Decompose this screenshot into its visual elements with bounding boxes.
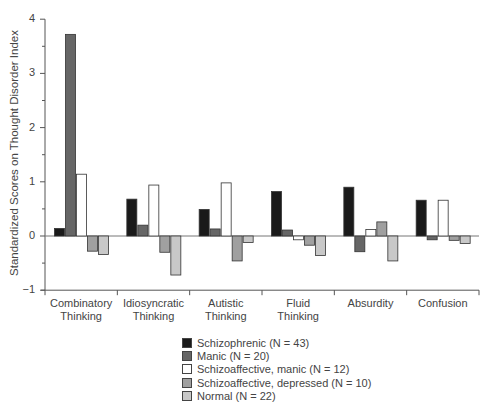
bar-schizoaffective-manic: [149, 185, 159, 236]
legend-item: Manic (N = 20): [182, 349, 371, 362]
bar-normal: [99, 236, 109, 254]
legend-label: Schizoaffective, manic (N = 12): [197, 363, 349, 375]
x-tick-label: CombinatoryThinking: [41, 297, 121, 323]
bar-manic: [210, 229, 220, 236]
y-tick-label: 1: [21, 175, 35, 187]
legend-label: Manic (N = 20): [197, 350, 269, 362]
bar-schizoaffective-manic: [366, 229, 376, 236]
plot-area: [0, 0, 496, 330]
x-tick-label: AutisticThinking: [186, 297, 266, 323]
bar-schizophrenic: [272, 192, 282, 236]
bar-normal: [316, 236, 326, 256]
y-tick-label: −1: [21, 283, 35, 295]
bar-manic: [66, 34, 76, 236]
bar-schizophrenic: [55, 228, 65, 236]
bar-schizoaffective-depressed: [377, 222, 387, 236]
x-tick-label: Confusion: [403, 297, 483, 310]
y-tick-label: 4: [21, 12, 35, 24]
y-tick-label: 3: [21, 66, 35, 78]
legend-label: Normal (N = 22): [197, 390, 276, 402]
legend-swatch: [182, 391, 192, 401]
bar-manic: [427, 236, 437, 240]
y-tick-label: 2: [21, 121, 35, 133]
bar-schizoaffective-manic: [294, 236, 304, 240]
x-tick-label: FluidThinking: [258, 297, 338, 323]
legend-label: Schizoaffective, depressed (N = 10): [197, 377, 371, 389]
bar-manic: [138, 225, 148, 236]
y-tick-label: 0: [21, 229, 35, 241]
y-axis-label: Standardized Scores on Thought Disorder …: [8, 30, 20, 276]
bar-schizoaffective-depressed: [160, 236, 170, 252]
legend-swatch: [182, 351, 192, 361]
bar-schizophrenic: [199, 209, 209, 236]
legend-item: Normal (N = 22): [182, 390, 371, 403]
bar-schizoaffective-depressed: [232, 236, 242, 261]
bar-schizophrenic: [344, 187, 354, 236]
bar-schizoaffective-depressed: [449, 236, 459, 240]
bar-normal: [388, 236, 398, 261]
bar-normal: [243, 236, 253, 243]
bar-schizoaffective-depressed: [305, 236, 315, 245]
x-tick-label: Absurdity: [331, 297, 411, 310]
legend-item: Schizophrenic (N = 43): [182, 336, 371, 349]
bar-schizophrenic: [416, 200, 426, 236]
legend: Schizophrenic (N = 43)Manic (N = 20)Schi…: [182, 336, 371, 403]
legend-label: Schizophrenic (N = 43): [197, 337, 309, 349]
legend-swatch: [182, 364, 192, 374]
bar-manic: [283, 230, 293, 236]
bar-chart: Standardized Scores on Thought Disorder …: [0, 0, 496, 330]
bar-schizoaffective-depressed: [88, 236, 98, 251]
bar-normal: [171, 236, 181, 275]
bar-normal: [460, 236, 470, 244]
legend-swatch: [182, 338, 192, 348]
bar-schizoaffective-manic: [438, 200, 448, 236]
bar-schizoaffective-manic: [221, 183, 231, 236]
bar-schizoaffective-manic: [77, 174, 87, 236]
bar-schizophrenic: [127, 199, 137, 236]
bar-manic: [355, 236, 365, 252]
legend-item: Schizoaffective, depressed (N = 10): [182, 376, 371, 389]
x-tick-label: IdiosyncraticThinking: [114, 297, 194, 323]
legend-swatch: [182, 378, 192, 388]
legend-item: Schizoaffective, manic (N = 12): [182, 363, 371, 376]
